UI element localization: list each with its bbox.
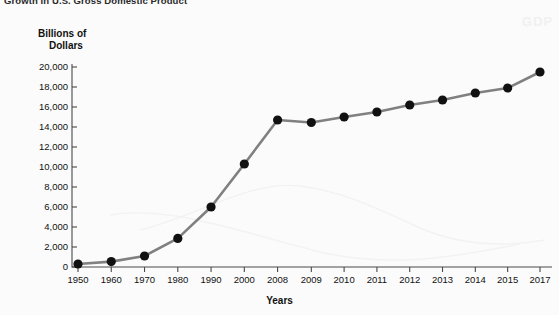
data-point-marker: [73, 259, 82, 268]
data-point-marker: [372, 107, 381, 116]
data-point-marker: [206, 202, 215, 211]
y-tick-label: 14,000: [39, 121, 68, 132]
y-tick-label: 8,000: [44, 181, 68, 192]
line-chart-plot: 02,0004,0006,0008,00010,00012,00014,0001…: [0, 0, 559, 315]
x-tick-label: 2000: [234, 274, 255, 285]
data-point-marker: [107, 257, 116, 266]
y-tick-label: 6,000: [44, 201, 68, 212]
data-point-marker: [438, 95, 447, 104]
y-tick-label: 20,000: [39, 61, 68, 72]
x-tick-label: 1980: [167, 274, 188, 285]
data-series-line: [78, 72, 540, 264]
x-tick-label: 1960: [101, 274, 122, 285]
y-tick-label: 18,000: [39, 81, 68, 92]
x-axis-ticks: 1950196019701980199020002008200920102011…: [67, 267, 550, 285]
y-axis-ticks: 02,0004,0006,0008,00010,00012,00014,0001…: [39, 61, 77, 272]
x-tick-label: 2008: [267, 274, 288, 285]
y-tick-label: 10,000: [39, 161, 68, 172]
x-tick-label: 1990: [200, 274, 221, 285]
x-tick-label: 2017: [529, 274, 550, 285]
data-point-marker: [173, 234, 182, 243]
data-point-marker: [503, 83, 512, 92]
x-tick-label: 2011: [367, 274, 387, 285]
data-point-marker: [140, 251, 149, 260]
x-tick-label: 2012: [399, 274, 420, 285]
x-tick-label: 2014: [465, 274, 486, 285]
data-point-marker: [273, 115, 282, 124]
y-tick-label: 0: [63, 261, 68, 272]
y-tick-label: 12,000: [39, 141, 68, 152]
y-tick-label: 16,000: [39, 101, 68, 112]
data-point-marker: [405, 100, 414, 109]
background-ghost-curve: [110, 185, 545, 260]
x-tick-label: 2013: [432, 274, 453, 285]
chart-axes: [72, 64, 552, 267]
x-tick-label: 2015: [497, 274, 518, 285]
x-tick-label: 2010: [334, 274, 355, 285]
x-tick-label: 1970: [134, 274, 155, 285]
data-series-markers: [73, 67, 544, 268]
x-tick-label: 1950: [67, 274, 88, 285]
y-tick-label: 2,000: [44, 241, 68, 252]
chart-page: GDP Growth in U.S. Gross Domestic Produc…: [0, 0, 559, 315]
data-point-marker: [340, 112, 349, 121]
data-point-marker: [240, 159, 249, 168]
data-point-marker: [471, 88, 480, 97]
data-point-marker: [307, 118, 316, 127]
y-tick-label: 4,000: [44, 221, 68, 232]
data-point-marker: [535, 67, 544, 76]
x-tick-label: 2009: [301, 274, 322, 285]
